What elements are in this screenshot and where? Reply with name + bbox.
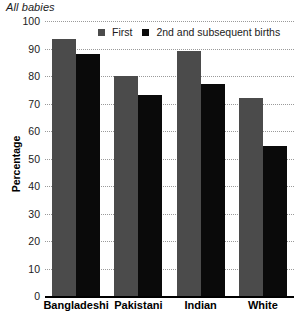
y-axis-tick-label: 70 xyxy=(6,98,40,110)
bar-group xyxy=(52,21,100,296)
y-axis-tick-label: 100 xyxy=(6,15,40,27)
bar xyxy=(177,51,201,296)
x-axis-tick-label: Indian xyxy=(184,299,216,311)
legend-swatch-icon xyxy=(98,29,105,36)
chart-title: All babies xyxy=(6,1,55,13)
y-axis-tick-label: 20 xyxy=(6,235,40,247)
bar xyxy=(138,95,162,296)
chart-legend: First2nd and subsequent births xyxy=(96,25,282,39)
plot-area xyxy=(45,21,294,296)
x-axis-tick-label: White xyxy=(248,299,278,311)
bar xyxy=(52,39,76,296)
x-axis-tick-label: Pakistani xyxy=(114,299,162,311)
legend-entry: First xyxy=(98,26,132,38)
legend-entry: 2nd and subsequent births xyxy=(142,26,280,38)
legend-swatch-icon xyxy=(142,29,149,36)
y-axis-title: Percentage xyxy=(10,116,22,212)
x-axis-tick-labels: BangladeshiPakistaniIndianWhite xyxy=(45,299,294,315)
bar-chart: All babies 0102030405060708090100 Percen… xyxy=(0,0,304,315)
y-axis-tick-label: 90 xyxy=(6,43,40,55)
bars-layer xyxy=(45,21,294,296)
bar xyxy=(76,54,100,296)
y-axis-tick-label: 10 xyxy=(6,263,40,275)
legend-label: 2nd and subsequent births xyxy=(156,26,280,38)
bar xyxy=(239,98,263,296)
x-axis-line xyxy=(45,296,294,298)
x-axis-tick-label: Bangladeshi xyxy=(43,299,108,311)
bar-group xyxy=(239,21,287,296)
bar-group xyxy=(114,21,162,296)
y-axis-tick-label: 0 xyxy=(6,290,40,302)
bar-group xyxy=(177,21,225,296)
y-axis-tick-label: 80 xyxy=(6,70,40,82)
legend-label: First xyxy=(112,26,132,38)
bar xyxy=(114,76,138,296)
bar xyxy=(263,146,287,296)
bar xyxy=(201,84,225,296)
